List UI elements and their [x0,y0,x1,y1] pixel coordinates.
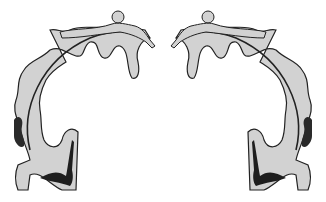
homunculus-diagram [0,0,326,202]
right-homunculus [171,11,312,190]
diagram-canvas [0,0,326,202]
left-homunculus [14,11,155,190]
